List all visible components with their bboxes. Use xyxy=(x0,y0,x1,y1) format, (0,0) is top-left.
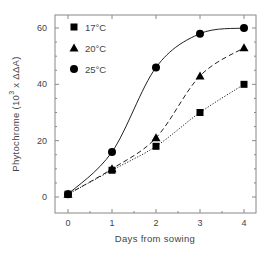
y-tick-label: 0 xyxy=(42,192,47,202)
data-point-triangle xyxy=(240,43,249,51)
data-point-triangle xyxy=(152,133,161,141)
x-tick-label: 0 xyxy=(65,218,70,228)
y-axis-label: Phytochrome (103 x ΔΔA) xyxy=(8,56,21,171)
y-axis-label-units: (10 xyxy=(10,95,21,110)
x-tick-label: 4 xyxy=(241,218,246,228)
legend-label: 20°C xyxy=(85,43,106,54)
legend-label: 25°C xyxy=(85,64,106,75)
data-point-circle xyxy=(240,24,248,32)
phytochrome-chart: 012340204060 17°C20°C25°C Days from sowi… xyxy=(0,0,272,259)
data-point-square xyxy=(197,109,204,116)
data-point-square xyxy=(153,143,160,150)
y-tick-label: 20 xyxy=(37,136,47,146)
x-tick-label: 2 xyxy=(153,218,158,228)
data-point-square xyxy=(241,81,248,88)
legend: 17°C20°C25°C xyxy=(70,22,107,75)
x-tick-label: 3 xyxy=(197,218,202,228)
legend-label: 17°C xyxy=(85,22,106,33)
data-point-circle xyxy=(196,30,204,38)
x-axis-label: Days from sowing xyxy=(115,233,195,244)
y-tick-label: 60 xyxy=(37,23,47,33)
data-point-circle xyxy=(108,148,116,156)
legend-marker-circle xyxy=(70,65,78,73)
data-point-circle xyxy=(64,190,72,198)
y-axis-label-main: Phytochrome xyxy=(10,112,21,171)
x-tick-label: 1 xyxy=(109,218,114,228)
legend-marker-triangle xyxy=(70,44,79,52)
legend-marker-square xyxy=(71,24,78,31)
y-tick-label: 40 xyxy=(37,79,47,89)
y-axis-label-units-tail: x ΔΔA) xyxy=(10,56,21,90)
data-point-circle xyxy=(152,63,160,71)
